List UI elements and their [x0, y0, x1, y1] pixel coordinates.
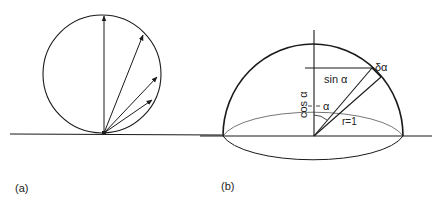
alpha-label: α: [323, 100, 330, 112]
panel-a: (a): [10, 15, 222, 194]
panel-b-label: (b): [221, 180, 234, 192]
vector-shallow: [104, 100, 152, 133]
vector-steep: [104, 35, 143, 133]
vector-mid: [104, 77, 157, 133]
diagram-canvas: (a) sin α δα cos α α r=1 (b): [0, 0, 443, 202]
base-ellipse-back: [223, 112, 403, 136]
intensity-circle: [43, 15, 161, 133]
radius-label: r=1: [342, 116, 357, 127]
hemisphere-dome: [223, 44, 403, 136]
alpha-arc: [314, 115, 327, 120]
panel-b: sin α δα cos α α r=1 (b): [200, 30, 432, 192]
sin-alpha-label: sin α: [324, 73, 348, 85]
base-ellipse-front: [223, 136, 403, 160]
panel-a-label: (a): [15, 182, 28, 194]
delta-alpha-label: δα: [375, 61, 388, 73]
surface-line-a: [10, 134, 222, 135]
cos-alpha-label: cos α: [297, 91, 309, 118]
